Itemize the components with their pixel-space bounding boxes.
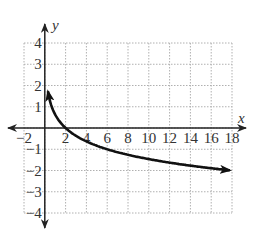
x-tick-label: 8	[124, 130, 132, 146]
y-tick-label: −4	[26, 205, 42, 221]
x-tick-label: 18	[225, 130, 240, 146]
curve-path	[48, 91, 230, 170]
x-tick-label: 6	[103, 130, 111, 146]
x-tick-label: 10	[141, 130, 156, 146]
y-tick-label: 2	[34, 78, 42, 94]
x-tick-label: 16	[204, 130, 220, 146]
x-tick-label: 14	[183, 130, 199, 146]
axes	[8, 24, 246, 228]
x-tick-label: 2	[62, 130, 70, 146]
y-tick-label: −2	[26, 163, 42, 179]
y-tick-label: 4	[34, 35, 42, 51]
y-tick-label: 3	[34, 56, 42, 72]
x-tick-label: 12	[162, 130, 177, 146]
x-axis-label: x	[237, 110, 245, 126]
y-tick-label: −1	[26, 141, 42, 157]
data-curve	[48, 91, 230, 170]
y-tick-label: −3	[26, 184, 42, 200]
y-axis-label: y	[50, 17, 59, 33]
log-curve-chart: −2246810121416184321−1−2−3−4 x y	[0, 0, 261, 236]
y-tick-label: 1	[34, 99, 42, 115]
